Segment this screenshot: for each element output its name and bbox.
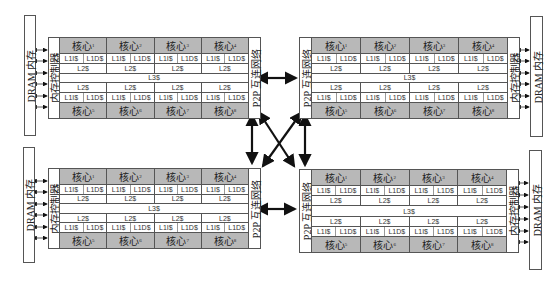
core-label: 核心 [119,38,139,53]
l1d-cache: L1D$ [386,54,410,63]
core-2: 核心2 [361,170,410,185]
core-label: 核心 [325,38,345,53]
l1-pair: L1I$L1D$ [410,54,459,63]
core-label: 核心 [325,103,345,118]
core-label: 核心 [471,237,491,252]
l3-row: L3$ [60,204,248,214]
core-index: 7 [186,108,189,113]
l2-cache: L2$ [458,217,506,226]
l1-pair: L1I$L1D$ [155,185,202,194]
l2-cache: L2$ [410,64,459,73]
core-index: 5 [345,242,348,247]
core-1: 核心1 [312,170,361,185]
core-3: 核心3 [155,38,202,53]
l1-pair: L1I$L1D$ [361,227,410,236]
core-index: 6 [139,238,142,243]
l1-pair: L1I$L1D$ [410,227,459,236]
p2p-network-top-left: P2P 互连网络 [248,37,261,119]
l1-pair: L1I$L1D$ [202,185,248,194]
core-label: 核心 [325,237,345,252]
core-index: 3 [186,174,189,179]
core-label: 核心 [373,237,393,252]
l1d-cache: L1D$ [84,185,107,194]
core-index: 1 [92,43,95,48]
core-4: 核心4 [459,38,507,53]
l2-cache: L2$ [107,214,154,223]
dram-label: DRAM 内存 [23,49,38,102]
l1i-cache: L1I$ [202,223,226,232]
l2-cache: L2$ [312,217,361,226]
l2-cache: L2$ [155,64,202,73]
l2-cache: L2$ [155,214,202,223]
l1i-cache: L1I$ [107,223,131,232]
l1-pair: L1I$L1D$ [155,223,202,232]
core-5: 核心5 [312,103,361,118]
l1i-cache: L1I$ [202,93,226,102]
l1i-cache: L1I$ [361,186,385,195]
l2-cache: L2$ [459,83,507,92]
core-4: 核心4 [458,170,506,185]
l1-pair: L1I$L1D$ [361,93,410,102]
core-index: 7 [442,242,445,247]
l3-row: L3$ [312,74,507,84]
l2-cache: L2$ [60,214,107,223]
p2p-network-bottom-left: P2P 互连网络 [248,168,261,249]
l1i-cache: L1I$ [60,93,84,102]
l1-pair: L1I$L1D$ [459,93,507,102]
l1i-cache: L1I$ [458,227,482,236]
l2-row-bottom: L2$ L2$ L2$ L2$ [312,83,507,93]
l1d-cache: L1D$ [84,223,107,232]
l1d-cache: L1D$ [385,227,408,236]
core-5: 核心5 [60,233,107,248]
l1i-cache: L1I$ [361,227,385,236]
core-index: 3 [186,43,189,48]
l1d-cache: L1D$ [483,186,506,195]
core-label: 核心 [422,170,442,185]
core-label: 核心 [373,170,393,185]
l2-cache: L2$ [60,195,107,204]
core-label: 核心 [214,38,234,53]
l1-pair: L1I$L1D$ [458,186,506,195]
core-label: 核心 [166,38,186,53]
core-index: 1 [345,175,348,180]
l1-pair: L1I$L1D$ [107,54,154,63]
l1d-cache: L1D$ [84,54,107,63]
l1-row-top: L1I$L1D$ L1I$L1D$ L1I$L1D$ L1I$L1D$ [60,185,248,195]
core-1: 核心1 [312,38,361,53]
l1d-cache: L1D$ [84,93,107,102]
l2-row-top: L2$ L2$ L2$ L2$ [312,64,507,74]
core-index: 4 [491,175,494,180]
l1i-cache: L1I$ [202,54,226,63]
core-index: 4 [234,174,237,179]
core-6: 核心6 [361,237,410,252]
core-1: 核心1 [60,38,107,53]
core-index: 2 [139,174,142,179]
core-index: 3 [442,175,445,180]
l2-cache: L2$ [361,217,410,226]
core-5: 核心5 [60,103,107,118]
l2-cache: L2$ [361,196,410,205]
l1i-cache: L1I$ [361,93,386,102]
core-row-bottom: 核心5 核心6 核心7 核心8 [60,103,248,118]
core-label: 核心 [72,169,92,184]
l1i-cache: L1I$ [410,227,434,236]
dram-label: DRAM 内存 [22,179,37,232]
core-label: 核心 [119,233,139,248]
core-8: 核心8 [458,237,506,252]
dram-memory-bottom-left: DRAM 内存 [23,147,35,263]
memory-controller-bottom-right: 内存控制器 [506,169,519,253]
core-label: 核心 [374,38,394,53]
core-5: 核心5 [312,237,361,252]
l1d-cache: L1D$ [337,54,361,63]
cache-core-grid-bottom-left: 核心1 核心2 核心3 核心4 L1I$L1D$ L1I$L1D$ L1I$L1… [59,168,249,249]
l1i-cache: L1I$ [458,186,482,195]
core-label: 核心 [472,103,492,118]
l2-cache: L2$ [107,83,154,92]
dram-label: DRAM 内存 [528,184,543,237]
l1i-cache: L1I$ [312,93,337,102]
core-label: 核心 [72,233,92,248]
core-label: 核心 [214,233,234,248]
l2-row-bottom: L2$ L2$ L2$ L2$ [60,214,248,224]
cache-core-grid-top-left: 核心1 核心2 核心3 核心4 L1I$L1D$ L1I$L1D$ L1I$L1… [59,37,249,119]
l1-row-bottom: L1I$L1D$ L1I$L1D$ L1I$L1D$ L1I$L1D$ [60,223,248,233]
